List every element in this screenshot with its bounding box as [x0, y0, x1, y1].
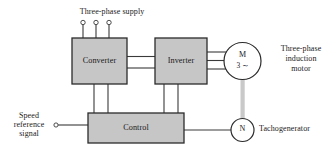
- control-label: Control: [88, 123, 184, 132]
- tachogenerator-letter: N: [232, 125, 253, 134]
- supply-terminal-icon: [107, 20, 111, 24]
- motor-description-line1: Three-phase: [268, 45, 334, 54]
- motor-letter: M: [230, 51, 255, 60]
- tachogenerator-label: Tachogenerator: [259, 125, 333, 134]
- motor-description-line3: motor: [268, 65, 334, 74]
- speed-reference-label-line3: signal: [6, 130, 52, 139]
- shaft-icon: [241, 78, 245, 118]
- speed-reference-input-line: [54, 123, 88, 127]
- inverter-label: Inverter: [155, 56, 207, 65]
- supply-phase-leads: [81, 20, 111, 38]
- speed-reference-terminal-icon: [54, 123, 58, 127]
- supply-terminal-icon: [94, 20, 98, 24]
- motor-description-line2: induction: [268, 55, 334, 64]
- motor-type-symbol: 3 ∼: [228, 62, 257, 70]
- control-feed-lines: [94, 84, 178, 113]
- drive-block-diagram: Three-phase supply Converter Inverter Co…: [0, 0, 336, 156]
- dc-link-lines: [127, 57, 155, 69]
- supply-terminal-icon: [81, 20, 85, 24]
- converter-label: Converter: [72, 56, 127, 65]
- supply-label: Three-phase supply: [58, 8, 166, 17]
